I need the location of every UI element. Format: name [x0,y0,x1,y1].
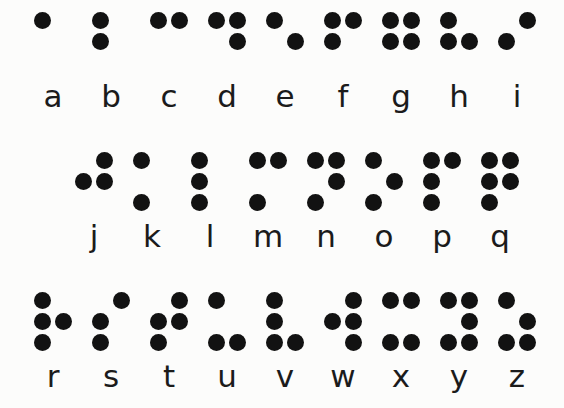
braille-label-a: a [24,74,82,118]
braille-dot-1 [481,152,498,169]
braille-dot-2 [481,173,498,190]
braille-dot-1 [382,12,399,29]
braille-label-d: d [198,74,256,118]
braille-letter-p: p [413,152,471,268]
braille-letter-z: z [488,292,546,408]
braille-dot-1 [266,292,283,309]
braille-label-z: z [488,354,546,398]
braille-dot-1 [34,12,51,29]
braille-label-o: o [355,214,413,258]
braille-dot-4 [171,12,188,29]
braille-letter-m: m [239,152,297,268]
braille-dot-4 [270,152,287,169]
braille-letter-i: i [488,12,546,128]
braille-cell-z [496,292,538,354]
braille-dot-6 [403,334,420,351]
braille-dot-3 [423,194,440,211]
braille-label-r: r [24,354,82,398]
braille-dot-3 [307,194,324,211]
braille-dot-1 [266,12,283,29]
braille-label-t: t [140,354,198,398]
braille-letter-v: v [256,292,314,408]
braille-label-j: j [65,214,123,258]
braille-dot-2 [324,313,341,330]
braille-letter-h: h [430,12,488,128]
braille-letter-t: t [140,292,198,408]
braille-dot-5 [345,313,362,330]
braille-dot-1 [208,12,225,29]
braille-cell-d [206,12,248,74]
braille-dot-1 [92,12,109,29]
braille-cell-q [479,152,521,214]
braille-cell-o [363,152,405,214]
braille-dot-2 [191,173,208,190]
braille-alphabet-chart: abcdefghijklmnopqrstuvwxyz [0,0,564,408]
braille-letter-b: b [82,12,140,128]
braille-label-k: k [123,214,181,258]
braille-letter-s: s [82,292,140,408]
braille-cell-h [438,12,480,74]
braille-letter-e: e [256,12,314,128]
braille-dot-5 [461,33,478,50]
braille-cell-l [189,152,231,214]
braille-letter-o: o [355,152,413,268]
braille-dot-3 [150,334,167,351]
braille-row-1: jklmnopq [0,152,564,268]
braille-dot-2 [92,313,109,330]
braille-dot-5 [328,173,345,190]
braille-label-l: l [181,214,239,258]
braille-letter-f: f [314,12,372,128]
braille-cell-p [421,152,463,214]
braille-dot-2 [440,33,457,50]
braille-dot-2 [34,313,51,330]
braille-dot-1 [249,152,266,169]
braille-cell-y [438,292,480,354]
braille-dot-4 [403,12,420,29]
braille-label-u: u [198,354,256,398]
braille-dot-2 [150,313,167,330]
braille-dot-3 [208,334,225,351]
braille-dot-3 [365,194,382,211]
braille-dot-3 [191,194,208,211]
braille-cell-t [148,292,190,354]
braille-dot-4 [345,292,362,309]
braille-dot-4 [502,152,519,169]
braille-dot-3 [440,334,457,351]
braille-dot-5 [96,173,113,190]
braille-cell-k [131,152,173,214]
braille-dot-3 [266,334,283,351]
braille-dot-4 [519,12,536,29]
braille-cell-b [90,12,132,74]
braille-dot-1 [382,292,399,309]
braille-letter-w: w [314,292,372,408]
braille-dot-1 [440,12,457,29]
braille-dot-2 [498,33,515,50]
braille-dot-4 [96,152,113,169]
braille-dot-2 [324,33,341,50]
braille-letter-n: n [297,152,355,268]
braille-label-h: h [430,74,488,118]
braille-label-v: v [256,354,314,398]
braille-letter-l: l [181,152,239,268]
braille-dot-5 [403,33,420,50]
braille-dot-3 [481,194,498,211]
braille-dot-5 [461,313,478,330]
braille-letter-k: k [123,152,181,268]
braille-letter-a: a [24,12,82,128]
braille-letter-c: c [140,12,198,128]
braille-dot-1 [208,292,225,309]
braille-dot-6 [229,334,246,351]
braille-label-q: q [471,214,529,258]
braille-dot-1 [365,152,382,169]
braille-dot-4 [113,292,130,309]
braille-dot-4 [229,12,246,29]
braille-cell-f [322,12,364,74]
braille-letter-u: u [198,292,256,408]
braille-dot-3 [249,194,266,211]
braille-letter-q: q [471,152,529,268]
braille-label-p: p [413,214,471,258]
braille-dot-4 [403,292,420,309]
braille-dot-4 [461,292,478,309]
braille-cell-e [264,12,306,74]
braille-letter-x: x [372,292,430,408]
